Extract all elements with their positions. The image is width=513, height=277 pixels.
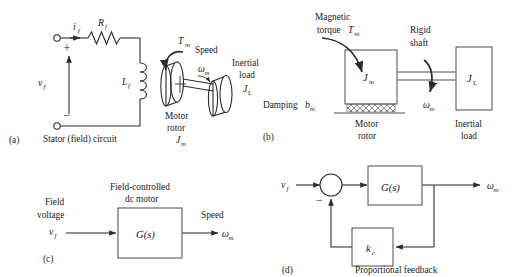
label-omega-m-sub: m [205, 69, 210, 76]
label-inductor-Lf: L [121, 76, 127, 87]
label-c-block-title-l2: dc motor [125, 194, 159, 204]
inductor-Lf-symbol [140, 63, 146, 99]
summing-junction [320, 174, 342, 196]
d-feedback-block [352, 228, 393, 266]
figure-canvas: + − i f R f v f L f [0, 0, 513, 277]
label-inertial-load-l2: load [239, 70, 255, 80]
label-b-inertial-load-l1: Inertial [455, 119, 482, 129]
label-d-input-vf: v [281, 179, 286, 190]
label-c-input-l2: voltage [37, 210, 64, 220]
terminal-bottom [54, 123, 60, 129]
panel-tag-a: (a) [9, 135, 19, 146]
label-b-motor-rotor-l1: Motor [355, 119, 379, 129]
label-c-input-vf-sub: f [55, 232, 58, 239]
label-c-transfer-Gs: G(s) [136, 229, 155, 241]
label-d-output-omega-sub: m [494, 186, 499, 193]
panel-a: + − i f R f v f L f [9, 17, 259, 147]
label-torque-Tm-sub: m [185, 41, 190, 48]
label-b-motor-rotor-l2: rotor [358, 131, 377, 141]
label-speed-word: Speed [195, 45, 218, 55]
polarity-minus: − [64, 108, 71, 122]
d-feedback-return [331, 199, 352, 247]
panel-d: v f − G(s) ω m k c Proportional feedback… [281, 166, 499, 276]
panel-tag-b: (b) [263, 132, 274, 143]
omega-shaft-arrow [424, 60, 432, 92]
panel-c: Field-controlled dc motor G(s) Field vol… [37, 182, 234, 265]
label-resistor-Rf: R [97, 17, 104, 28]
label-magnetic-l2: torque [317, 25, 341, 35]
label-magnetic-l1: Magnetic [315, 12, 350, 22]
panel-b: J m J L Magnetic torque T m Rigid shaft … [263, 12, 492, 143]
panel-tag-d: (d) [282, 265, 293, 276]
label-c-output-word: Speed [201, 210, 224, 220]
label-motor-rotor-l1: Motor [165, 111, 189, 121]
motor-rotor-box [345, 50, 397, 104]
label-b-inertial-load-l2: load [461, 131, 477, 141]
rotor-face-right [171, 62, 184, 102]
label-b-load-inertia-JL-sub: L [473, 79, 477, 86]
omega-arrow [198, 76, 210, 82]
caption-panel-a: Stator (field) circuit [43, 134, 117, 145]
label-d-forward-Gs: G(s) [381, 182, 400, 194]
label-voltage-vf-sub: f [44, 83, 47, 90]
resistor-Rf-symbol [88, 32, 120, 44]
label-inductor-Lf-sub: f [128, 82, 131, 89]
label-magnetic-torque-sub: m [355, 30, 360, 37]
label-inertial-load-l1: Inertial [232, 58, 259, 68]
rotor-load-assembly [161, 62, 232, 116]
label-torque-Tm: T [178, 35, 185, 46]
label-d-feedback-kc-sub: c [372, 249, 375, 256]
label-motor-rotor-l2: rotor [167, 123, 186, 133]
label-voltage-vf: v [38, 77, 43, 88]
label-damping-word: Damping [263, 100, 298, 110]
label-c-block-title-l1: Field-controlled [110, 182, 170, 192]
label-resistor-Rf-sub: f [105, 23, 108, 30]
label-load-inertia-JL-sub: L [248, 89, 252, 96]
label-b-omega-sub: m [430, 105, 435, 112]
polarity-plus: + [64, 41, 71, 55]
label-current-if: i [73, 21, 76, 32]
label-d-input-vf-sub: f [287, 185, 290, 192]
panel-tag-c: (c) [43, 254, 53, 265]
terminal-top [54, 35, 60, 41]
label-rigid-l1: Rigid [410, 25, 431, 35]
label-current-if-sub: f [78, 27, 81, 34]
damping-hatch [347, 104, 395, 112]
label-damping-sub: m [310, 105, 315, 112]
label-motor-inertia-Jm-sub: m [181, 140, 186, 147]
label-b-motor-inertia-Jm-sub: m [369, 78, 374, 85]
caption-panel-d: Proportional feedback [355, 265, 438, 275]
label-c-input-l1: Field [45, 197, 64, 207]
label-rigid-l2: shaft [410, 38, 428, 48]
label-c-output-omega-sub: m [229, 234, 234, 241]
load-face-right [220, 76, 232, 113]
label-d-feedback-kc: k [366, 243, 371, 254]
label-c-input-vf: v [49, 226, 54, 237]
figure-root: + − i f R f v f L f [0, 0, 513, 277]
summing-minus-sign: − [316, 193, 323, 207]
